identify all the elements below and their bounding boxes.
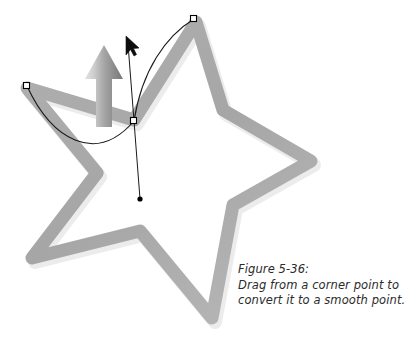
arrow-pointer-cursor[interactable] (126, 36, 139, 56)
direction-handle-down-dot[interactable] (137, 196, 142, 201)
handle-dot-shape[interactable] (137, 196, 142, 201)
figure-caption-line-2: convert it to a smooth point. (238, 293, 403, 309)
direction-handle-down-line[interactable] (134, 121, 140, 199)
anchor-left-corner[interactable] (24, 83, 30, 89)
arrow-pointer-cursor-shape[interactable] (126, 36, 139, 56)
figure-canvas: Figure 5-36: Drag from a corner point to… (0, 0, 405, 340)
figure-caption-label: Figure 5-36: (238, 262, 403, 278)
figure-caption-line-1: Drag from a corner point to (238, 278, 403, 294)
direction-handle-up-line[interactable] (128, 44, 134, 121)
figure-caption: Figure 5-36: Drag from a corner point to… (238, 262, 403, 309)
anchor-top-right-corner[interactable] (191, 16, 197, 22)
anchor-center-smooth[interactable] (131, 118, 137, 124)
